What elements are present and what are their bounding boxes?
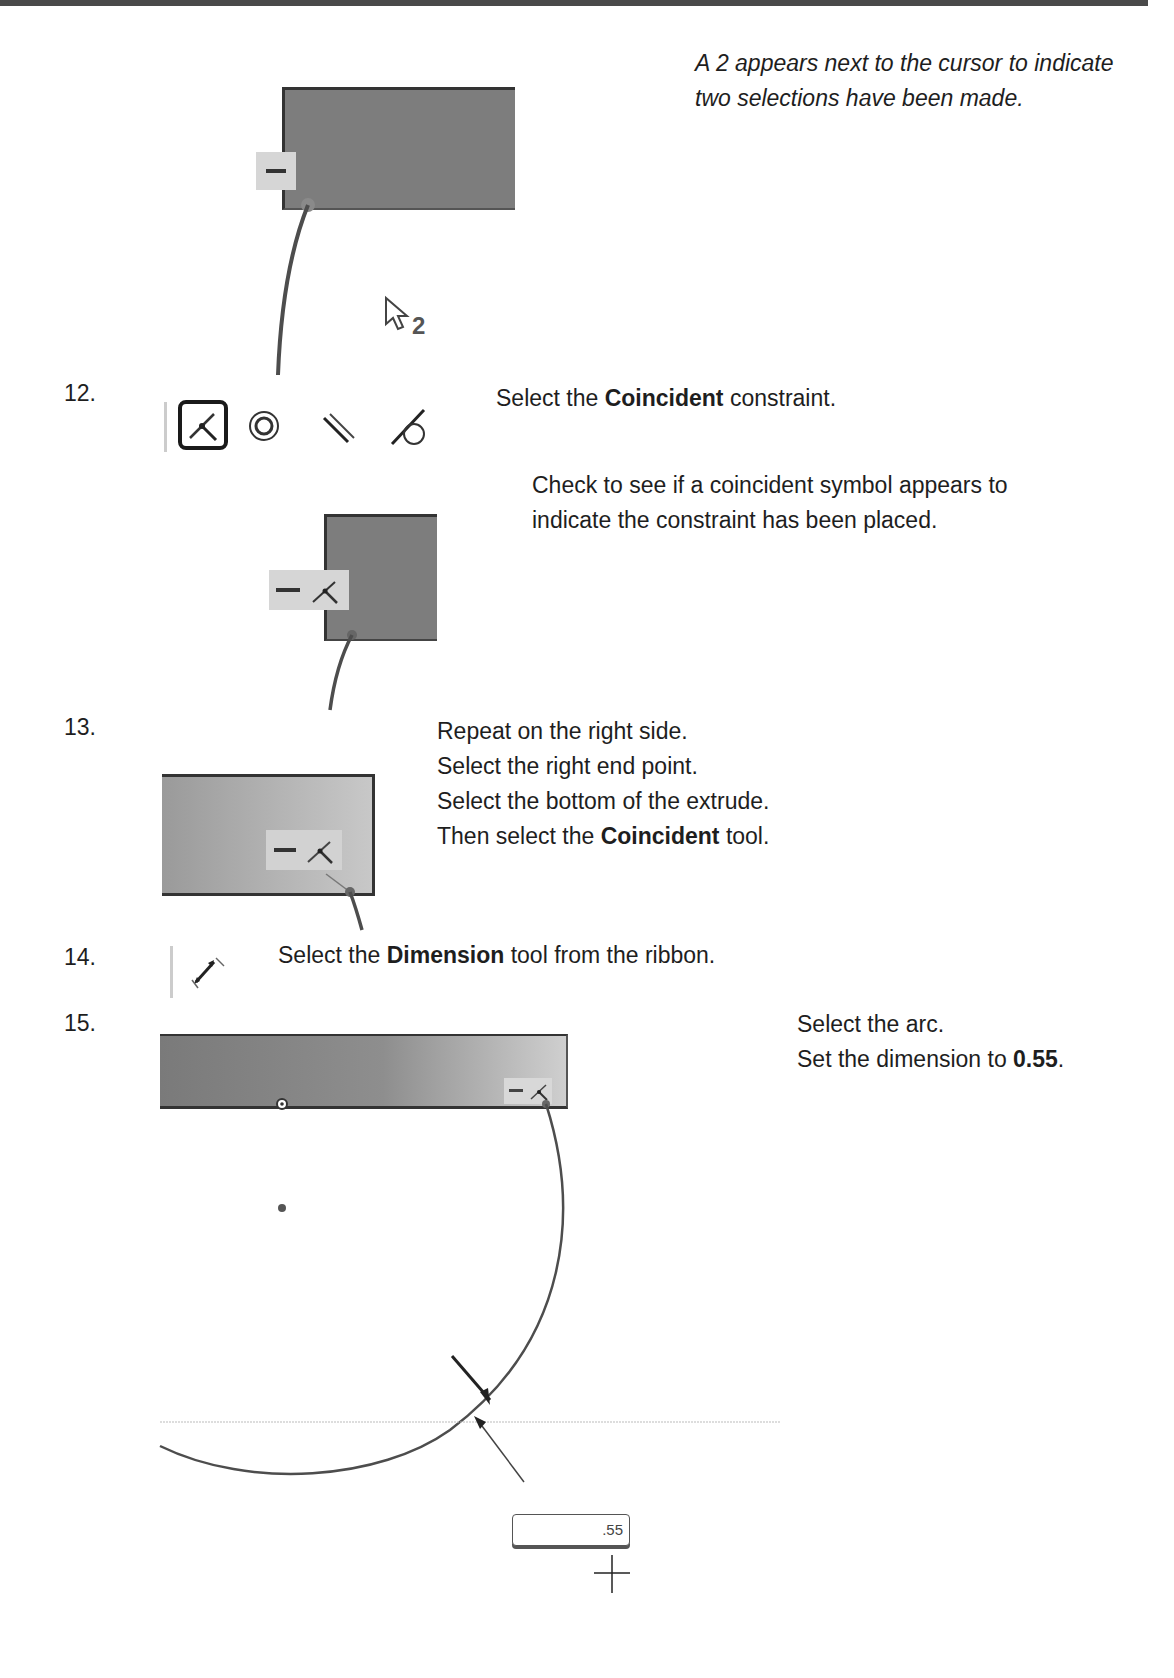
toolbar-separator: [170, 946, 173, 998]
step-13-instructions: Repeat on the right side. Select the rig…: [437, 714, 897, 854]
dimension-value-input[interactable]: .55: [512, 1514, 630, 1546]
dimension-value: .55: [602, 1521, 623, 1538]
step-number: 15.: [64, 1010, 96, 1037]
step-12-check-note: Check to see if a coincident symbol appe…: [532, 468, 1092, 538]
step-14-instruction: Select the Dimension tool from the ribbo…: [278, 938, 715, 973]
step-number: 14.: [64, 944, 96, 971]
coincident-icon: [186, 408, 222, 444]
note-top: A 2 appears next to the cursor to indica…: [695, 46, 1115, 116]
step-number: 13.: [64, 714, 96, 741]
coincident-button[interactable]: [178, 400, 228, 450]
sketch-arc-segment[interactable]: [250, 500, 450, 720]
dimension-icon[interactable]: [188, 952, 228, 992]
toolbar-separator: [164, 402, 167, 452]
tangent-icon[interactable]: [390, 404, 430, 448]
concentric-icon[interactable]: [248, 408, 284, 444]
step-number: 12.: [64, 380, 96, 407]
step-12-instruction: Select the Coincident constraint.: [496, 381, 836, 416]
sketch-arc-segment[interactable]: [150, 750, 400, 930]
arc-sketch[interactable]: [150, 1020, 790, 1620]
right-side-illustration: [150, 750, 400, 930]
parallel-icon[interactable]: [320, 408, 360, 448]
sketch-arc-segment[interactable]: [0, 0, 600, 380]
arc-dimension-illustration: .55: [150, 1020, 790, 1620]
cursor-arrow-icon: [384, 296, 414, 332]
step-15-instructions: Select the arc. Set the dimension to 0.5…: [797, 1007, 1157, 1077]
selection-count: 2: [412, 312, 425, 340]
constraint-toolbar: [160, 376, 450, 456]
selection-illustration: 2: [0, 0, 600, 370]
coincident-result-illustration: [250, 500, 450, 720]
